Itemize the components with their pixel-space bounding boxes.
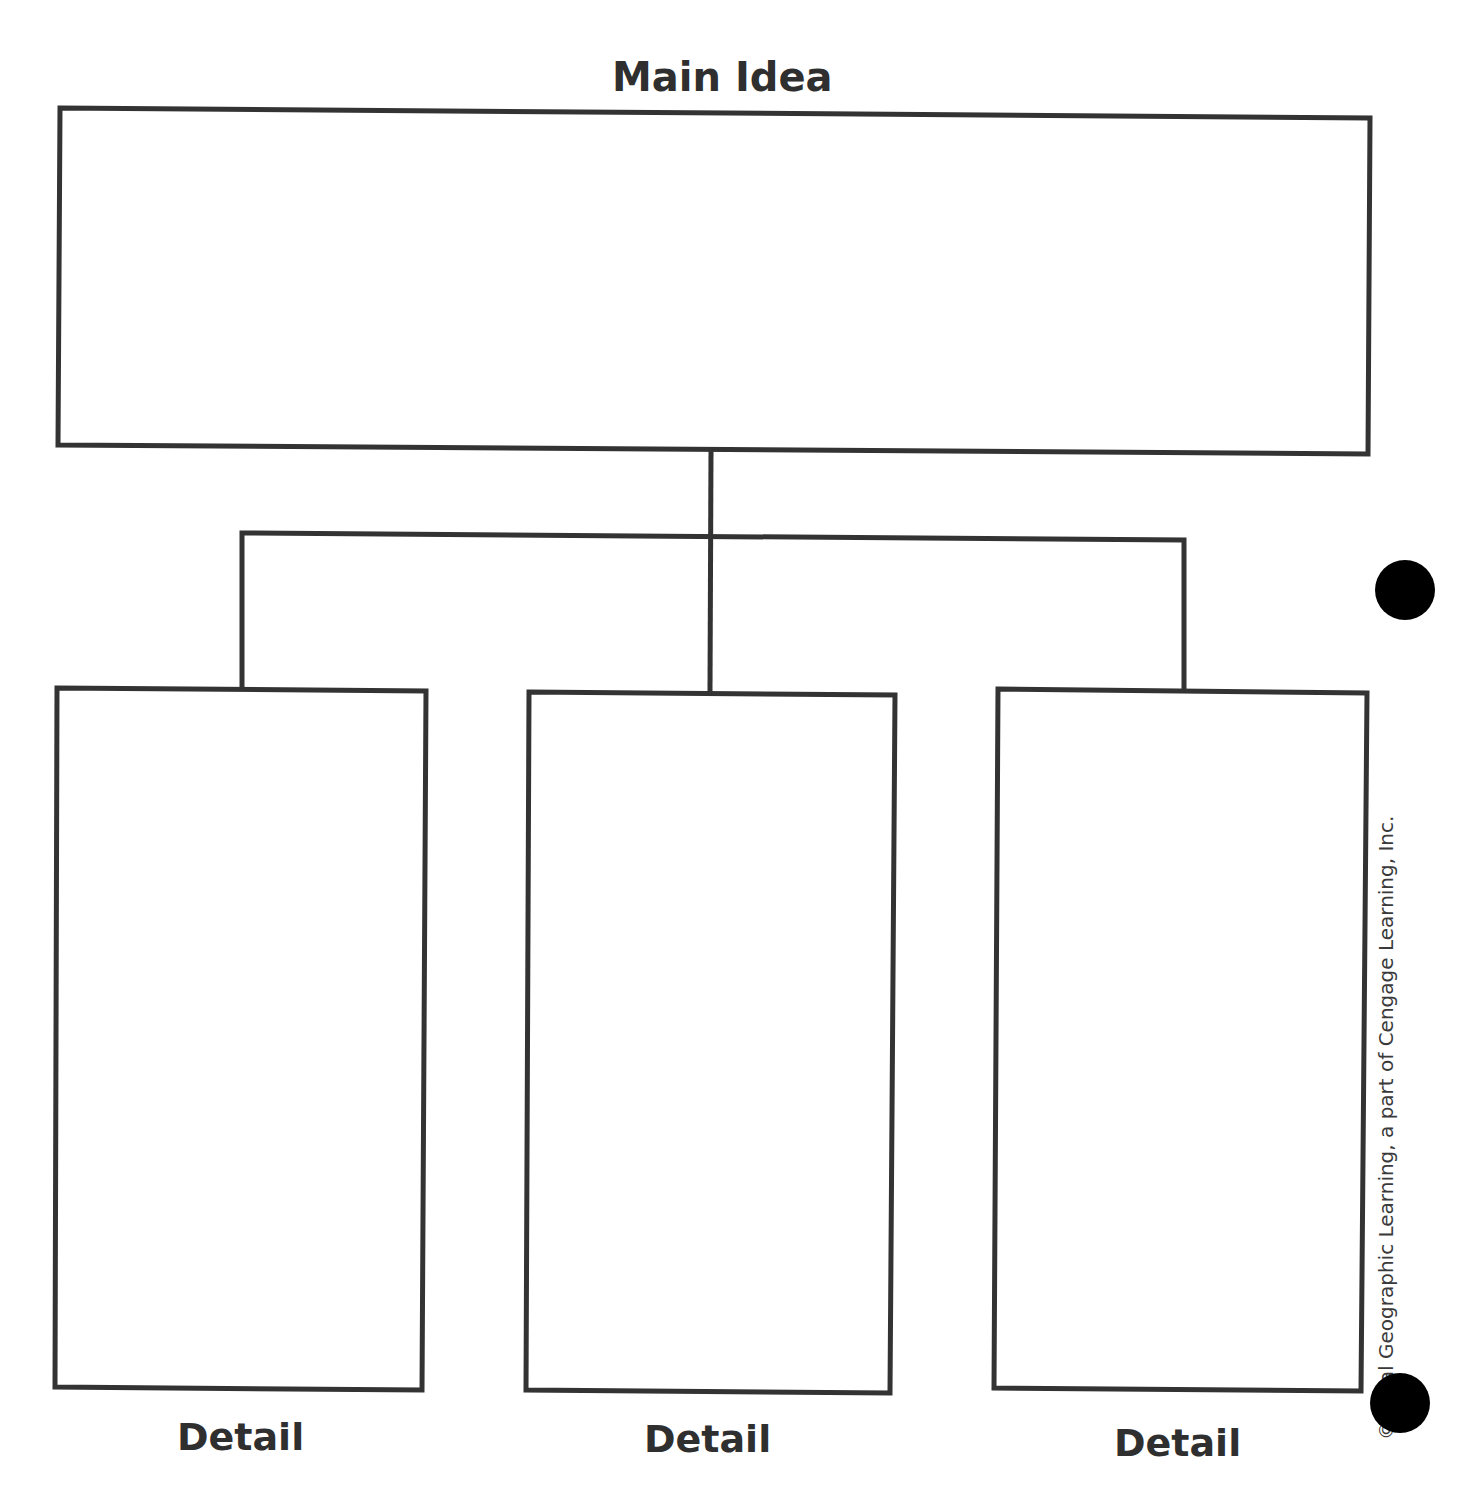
organizer-diagram xyxy=(0,0,1458,1496)
detail-box-2[interactable] xyxy=(526,692,895,1393)
detail-label-3: Detail xyxy=(1114,1420,1241,1466)
detail-box-1[interactable] xyxy=(55,688,426,1390)
punch-hole-top xyxy=(1375,560,1435,620)
detail-label-1: Detail xyxy=(177,1414,304,1460)
copyright-text: ional Geographic Learning, a part of Cen… xyxy=(1374,816,1398,1414)
connector-stem xyxy=(710,450,711,692)
main-idea-heading: Main Idea xyxy=(612,52,833,102)
detail-label-2: Detail xyxy=(644,1416,771,1462)
main-idea-box[interactable] xyxy=(58,108,1370,454)
detail-box-3[interactable] xyxy=(994,689,1367,1391)
copyright-notice: © ional Geographic Learning, a part of C… xyxy=(1374,816,1398,1440)
punch-hole-bottom xyxy=(1370,1373,1430,1433)
